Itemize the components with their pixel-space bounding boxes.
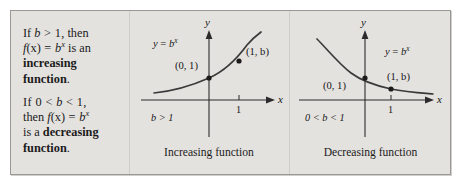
y-axis-label: y [204,16,210,28]
graph-increasing-caption: Increasing function [129,146,289,159]
figure-panel: If b > 1, then f(x) = bx is an increasin… [10,10,451,175]
rule-decreasing: If 0 < b < 1, then f(x) = bx is a decrea… [23,95,127,156]
y-axis-arrowhead [206,30,213,39]
rule2-isa: is a [23,125,43,139]
curve-eq-equals: = [390,46,401,57]
curve-eq-exponent: x [405,44,410,53]
rule1-relation: > 1 [40,26,61,40]
curve-eq-exponent: x [173,36,178,45]
curve-equation-label: y = bx [152,36,178,49]
rules-text-cell: If b > 1, then f(x) = bx is an increasin… [11,11,129,174]
rule-increasing-line-3: increasing [23,56,127,71]
x-tick-label-one: 1 [388,104,393,115]
rule2-relation: < 1 [62,95,83,109]
rule-increasing-line-1: If b > 1, then [23,26,127,41]
x-tick-label-one: 1 [236,104,241,115]
graph-increasing-cell: x 1 y (0, 1) (1, b) [129,11,289,174]
point-y-intercept-marker [362,75,367,80]
rule2-exponent: x [85,109,89,118]
rule1-arg: (x) [26,41,40,55]
rule-increasing-line-4: function. [23,72,127,87]
x-axis-arrowhead [266,97,275,104]
rule2-then: then [23,110,47,124]
rule2-decreasing-word: decreasing [43,125,99,139]
rule1-function-word: function [23,72,67,86]
y-axis-arrowhead [362,30,369,39]
point-one-b-label: (1, b) [387,71,410,83]
rule-decreasing-line-3: is a decreasing [23,125,127,140]
y-axis-label: y [360,16,366,28]
condition-label: b > 1 [151,112,173,123]
rule1-period: . [67,72,70,86]
point-y-intercept-label: (0, 1) [323,80,346,92]
x-axis-arrowhead [425,97,434,104]
rule2-period: . [67,141,70,155]
x-axis-label: x [277,93,283,105]
figure-page: If b > 1, then f(x) = bx is an increasin… [0,0,461,183]
point-y-intercept-marker [206,75,211,80]
rule1-tail: is an [65,41,91,55]
point-y-intercept-label: (0, 1) [175,60,198,72]
rule2-suffix: , [83,95,86,109]
point-one-b-marker [388,86,393,91]
rule1-prefix: If [23,26,34,40]
rule-increasing-line-2: f(x) = bx is an [23,41,127,56]
rule-decreasing-line-4: function. [23,141,127,156]
curve-equation-label: y = bx [384,44,410,57]
x-axis-label: x [436,93,442,105]
rule2-prefix: If 0 < [23,95,56,109]
rule-decreasing-line-2: then f(x) = bx [23,110,127,125]
rule-decreasing-line-1: If 0 < b < 1, [23,95,127,110]
rule1-suffix: , then [61,26,88,40]
rule2-function-word: function [23,141,67,155]
graph-increasing-plot: x 1 y (0, 1) (1, b) [129,11,289,151]
curve-eq-equals: = [158,38,169,49]
graph-decreasing-cell: x 1 y (0, 1) (1, b) [289,11,452,174]
point-one-b-marker [236,58,241,63]
condition-label: 0 < b < 1 [305,112,345,123]
graph-decreasing-caption: Decreasing function [289,146,452,159]
rule2-arg: (x) [51,110,65,124]
graph-decreasing-plot: x 1 y (0, 1) (1, b) [289,11,452,151]
point-one-b-label: (1, b) [246,46,269,58]
rule-increasing: If b > 1, then f(x) = bx is an increasin… [23,26,127,87]
rule2-eq: = [65,110,79,124]
rule1-eq: = [41,41,55,55]
